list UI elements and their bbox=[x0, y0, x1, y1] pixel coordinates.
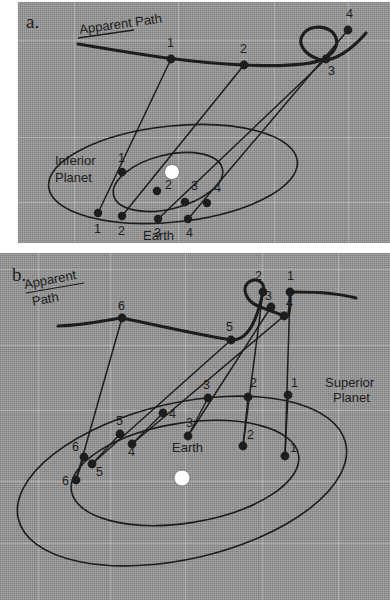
planet-point-label-b-4: 4 bbox=[169, 407, 176, 421]
earth-point-label-b-3: 3 bbox=[186, 416, 193, 430]
apparent-path-curve-b bbox=[58, 280, 356, 340]
earth-point-label-a-4: 4 bbox=[186, 226, 193, 240]
planet-point-b-3 bbox=[204, 394, 213, 403]
earth-point-a-1 bbox=[94, 209, 102, 217]
earth-point-label-b-2: 2 bbox=[247, 428, 254, 442]
earth-point-label-b-5: 5 bbox=[96, 465, 103, 479]
planet-point-label-b-3: 3 bbox=[203, 378, 210, 392]
sky-point-label-b-6: 6 bbox=[118, 299, 125, 313]
earth-point-label-a-2: 2 bbox=[118, 224, 125, 238]
earth-point-label-a-1: 1 bbox=[94, 222, 101, 236]
earth-point-b-6 bbox=[72, 476, 81, 485]
planet-point-b-5 bbox=[116, 430, 125, 439]
sky-point-b-3 bbox=[267, 303, 276, 312]
planet-point-a-4 bbox=[203, 199, 211, 207]
sky-point-a-2 bbox=[240, 61, 249, 70]
sky-point-label-b-2: 2 bbox=[255, 269, 262, 283]
panel-a-inferior-planet: a. Apparent Path Inferior Planet Earth 1… bbox=[18, 2, 390, 243]
sky-point-label-a-4: 4 bbox=[346, 7, 353, 21]
planet-point-b-1 bbox=[284, 391, 293, 400]
planet-point-a-2 bbox=[153, 187, 161, 195]
sky-point-a-3 bbox=[322, 55, 331, 64]
earth-point-b-1 bbox=[281, 452, 290, 461]
sky-point-a-1 bbox=[167, 55, 176, 64]
earth-point-label-b-4: 4 bbox=[128, 445, 135, 459]
sky-point-label-b-1: 1 bbox=[287, 269, 294, 283]
sun-marker-b bbox=[174, 470, 190, 486]
planet-point-label-a-2: 2 bbox=[165, 178, 172, 192]
sky-point-label-b-5: 5 bbox=[226, 320, 233, 334]
planet-point-label-b-6: 6 bbox=[72, 440, 79, 454]
earth-planet-connectors-b bbox=[76, 395, 288, 480]
apparent-path-label-a: Apparent Path bbox=[78, 11, 162, 37]
panel-b-canvas: b. Apparent Path Superior Planet Earth 1… bbox=[0, 253, 390, 600]
planet-point-b-2 bbox=[244, 393, 253, 402]
earth-point-label-b-1: 1 bbox=[290, 441, 297, 455]
panel-a-id-label: a. bbox=[26, 11, 39, 32]
sky-point-b-4 bbox=[280, 312, 289, 321]
earth-point-a-2 bbox=[118, 212, 126, 220]
earth-point-a-4 bbox=[184, 215, 192, 223]
apparent-path-label-b-line2: Path bbox=[31, 289, 60, 309]
sky-point-b-6 bbox=[118, 314, 127, 323]
planet-point-b-4 bbox=[159, 409, 168, 418]
panel-a-canvas: a. Apparent Path Inferior Planet Earth 1… bbox=[18, 2, 390, 243]
earth-point-a-3 bbox=[154, 215, 162, 223]
inferior-planet-label-line1: Inferior bbox=[55, 153, 96, 168]
planet-point-label-a-4: 4 bbox=[214, 181, 221, 195]
planet-point-a-3 bbox=[181, 198, 189, 206]
planet-point-label-b-2: 2 bbox=[250, 376, 257, 390]
planet-point-label-b-5: 5 bbox=[116, 414, 123, 428]
planet-point-label-a-1: 1 bbox=[118, 151, 125, 165]
superior-planet-label-line2: Planet bbox=[333, 390, 370, 405]
sky-point-label-a-2: 2 bbox=[240, 42, 247, 56]
planet-point-a-1 bbox=[118, 168, 126, 176]
panel-b-superior-planet: b. Apparent Path Superior Planet Earth 1… bbox=[0, 253, 390, 600]
planet-point-label-a-3: 3 bbox=[191, 179, 198, 193]
earth-label-b: Earth bbox=[172, 440, 203, 455]
earth-point-b-2 bbox=[239, 442, 248, 451]
sky-point-label-b-3: 3 bbox=[265, 289, 272, 303]
planet-point-label-b-1: 1 bbox=[291, 376, 298, 390]
earth-point-label-a-3: 3 bbox=[154, 226, 161, 240]
sky-point-b-5 bbox=[227, 336, 236, 345]
earth-point-label-b-6: 6 bbox=[62, 474, 69, 488]
sky-point-label-a-1: 1 bbox=[167, 36, 174, 50]
sky-point-label-a-3: 3 bbox=[328, 64, 335, 78]
superior-planet-label-line1: Superior bbox=[325, 375, 375, 390]
sky-point-label-b-4: 4 bbox=[286, 296, 293, 310]
planet-point-b-6 bbox=[80, 453, 89, 462]
inferior-planet-label-line2: Planet bbox=[55, 170, 92, 185]
sky-point-a-4 bbox=[344, 26, 353, 35]
figure-root: a. Apparent Path Inferior Planet Earth 1… bbox=[0, 0, 390, 600]
